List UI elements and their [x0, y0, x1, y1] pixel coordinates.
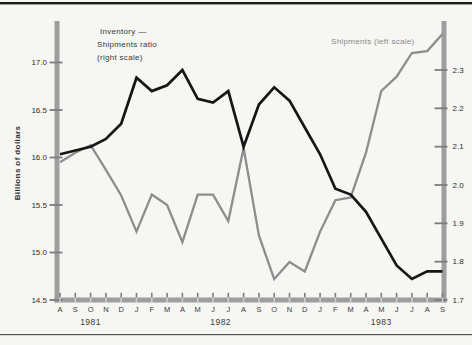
right-tick-label: 2.3: [453, 66, 465, 75]
left-axis-tick: [50, 252, 63, 254]
month-tick: [182, 293, 184, 298]
month-tick: [151, 293, 153, 298]
month-tick-gap: [381, 298, 383, 303]
left-tick-label: 15.0: [31, 248, 47, 257]
month-tick: [304, 293, 306, 298]
year-label: 1981: [80, 317, 101, 327]
ratio-annotation-line2: Shipments ratio: [97, 38, 157, 51]
month-tick: [90, 293, 92, 298]
month-tick-gap: [197, 298, 199, 303]
month-label: A: [363, 305, 368, 314]
month-tick: [442, 293, 444, 298]
month-tick-gap: [228, 298, 230, 303]
month-label: O: [88, 305, 94, 314]
month-label: J: [410, 305, 414, 314]
right-tick-label: 1.9: [453, 219, 465, 228]
month-tick: [365, 293, 367, 298]
ratio-annotation-line3: (right scale): [97, 51, 157, 64]
month-label: J: [211, 305, 215, 314]
month-tick: [273, 293, 275, 298]
month-tick-gap: [365, 298, 367, 303]
month-tick-gap: [59, 298, 61, 303]
right-axis-tick: [435, 69, 448, 71]
month-tick-gap: [243, 298, 245, 303]
month-tick: [335, 293, 337, 298]
right-axis-tick: [435, 299, 448, 301]
month-label: F: [150, 305, 155, 314]
right-axis-tick: [435, 107, 448, 109]
month-tick: [411, 293, 413, 298]
right-axis-tick: [435, 222, 448, 224]
year-label: 1982: [210, 317, 231, 327]
month-tick-gap: [304, 298, 306, 303]
left-tick-label: 17.0: [31, 58, 47, 67]
month-label: D: [118, 305, 124, 314]
month-tick-gap: [289, 298, 291, 303]
month-tick-gap: [396, 298, 398, 303]
month-label: M: [164, 305, 170, 314]
month-tick-gap: [151, 298, 153, 303]
month-label: J: [135, 305, 139, 314]
month-label: M: [378, 305, 384, 314]
chart-canvas: 14.515.015.516.016.517.01.71.81.92.02.12…: [0, 0, 472, 345]
month-tick: [105, 293, 107, 298]
month-tick-gap: [120, 298, 122, 303]
right-tick-label: 1.8: [453, 257, 465, 266]
chart: 14.515.015.516.016.517.01.71.81.92.02.12…: [0, 0, 472, 345]
month-label: M: [195, 305, 201, 314]
month-tick: [59, 293, 61, 298]
right-axis-bar: [442, 21, 447, 303]
right-axis-tick: [435, 184, 448, 186]
left-axis-tick: [50, 204, 63, 206]
right-tick-label: 2.2: [453, 104, 465, 113]
month-tick-gap: [273, 298, 275, 303]
month-tick: [166, 293, 168, 298]
month-tick-gap: [335, 298, 337, 303]
month-tick: [136, 293, 138, 298]
month-label: S: [73, 305, 78, 314]
month-label: J: [318, 305, 322, 314]
month-label: D: [302, 305, 308, 314]
left-axis-title: Billions of dollars: [13, 126, 22, 201]
month-tick-gap: [319, 298, 321, 303]
month-tick: [319, 293, 321, 298]
right-axis-tick: [435, 146, 448, 148]
right-tick-label: 1.7: [453, 296, 465, 305]
top-rule: [0, 2, 472, 4]
month-tick-gap: [411, 298, 413, 303]
month-tick-gap: [212, 298, 214, 303]
shipments-line: [60, 34, 443, 279]
month-tick-gap: [426, 298, 428, 303]
month-tick-gap: [182, 298, 184, 303]
ratio-series-annotation: Inventory — Shipments ratio (right scale…: [97, 25, 157, 64]
month-tick: [396, 293, 398, 298]
month-tick: [289, 293, 291, 298]
month-tick: [212, 293, 214, 298]
left-tick-label: 15.5: [31, 201, 47, 210]
month-label: A: [57, 305, 62, 314]
left-tick-label: 14.5: [31, 296, 47, 305]
month-tick: [350, 293, 352, 298]
right-tick-label: 2.0: [453, 181, 465, 190]
month-label: O: [271, 305, 277, 314]
month-label: N: [287, 305, 292, 314]
month-label: J: [395, 305, 399, 314]
month-tick: [258, 293, 260, 298]
ratio-line: [60, 70, 443, 279]
month-label: J: [226, 305, 230, 314]
month-label: F: [333, 305, 338, 314]
month-tick-gap: [105, 298, 107, 303]
shipments-series-annotation: Shipments (left scale): [331, 37, 415, 46]
month-label: M: [348, 305, 354, 314]
month-label: A: [425, 305, 430, 314]
left-axis-tick: [50, 109, 63, 111]
month-tick-gap: [258, 298, 260, 303]
month-tick: [381, 293, 383, 298]
right-axis-tick: [435, 261, 448, 263]
left-axis-tick: [50, 157, 63, 159]
ratio-annotation-line1: Inventory —: [97, 25, 157, 38]
right-tick-label: 2.1: [453, 142, 465, 151]
year-label: 1983: [371, 317, 392, 327]
month-tick-gap: [90, 298, 92, 303]
month-label: S: [256, 305, 261, 314]
